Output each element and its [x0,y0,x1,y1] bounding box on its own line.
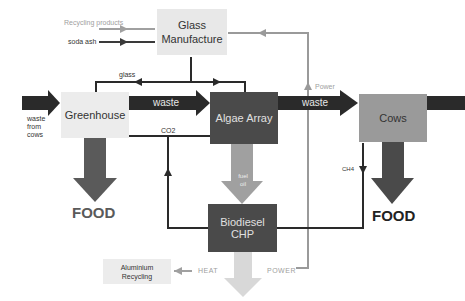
waste-heat-arrow [224,252,262,297]
recycling-products-arrow [99,25,155,33]
fuel-oil-label: fuel oil [236,172,250,188]
glass-label: glass [119,71,135,78]
waste-from-cows-label-2: from [27,123,45,131]
algae-array-label: Algae Array [216,112,273,124]
waste-from-cows-arrow [22,90,60,116]
glass-manufacture-node: Glass Manufacture [157,9,227,55]
biodiesel-chp-node: Biodiesel CHP [208,204,277,252]
co2-line [128,136,210,228]
fuel-oil-label-2: oil [236,180,250,188]
greenhouse-label: Greenhouse [65,109,126,121]
aluminium-recycling-node: Aluminium Recycling [103,259,171,284]
fuel-oil-label-1: fuel [236,172,250,180]
ch4-label: CH4 [342,166,354,172]
soda-ash-arrow [99,38,155,46]
food-right-label: FOOD [372,207,415,224]
power-up-label: Power [315,83,335,90]
greenhouse-node: Greenhouse [61,92,129,138]
glass-manufacture-label-1: Glass [178,18,206,32]
waste-label-1: waste [153,97,179,108]
recycling-products-label: Recycling products [64,19,123,26]
heat-label: HEAT [198,267,218,274]
ch4-line [275,143,367,228]
co2-label: CO2 [161,127,175,134]
waste-from-cows-label: waste from cows [27,115,45,139]
power-label: POWER [267,267,296,274]
aluminium-recycling-label-2: Recycling [122,272,152,281]
soda-ash-label: soda ash [68,38,96,45]
waste-from-cows-label-1: waste [27,115,45,123]
aluminium-recycling-label-1: Aluminium [121,263,154,272]
biodiesel-chp-label: Biodiesel CHP [208,216,277,240]
glass-manufacture-label-2: Manufacture [161,32,222,46]
waste-label-2: waste [302,97,328,108]
algae-array-node: Algae Array [210,92,278,144]
diagram-connectors [0,0,465,301]
cows-label: Cows [379,112,407,124]
food-arrow-right [371,140,414,204]
waste-from-cows-label-3: cows [27,131,45,139]
cows-output-bar [427,96,465,110]
cows-node: Cows [359,94,427,142]
heat-arrow [174,267,192,275]
food-left-label: FOOD [72,204,115,221]
food-arrow-left [73,138,117,202]
